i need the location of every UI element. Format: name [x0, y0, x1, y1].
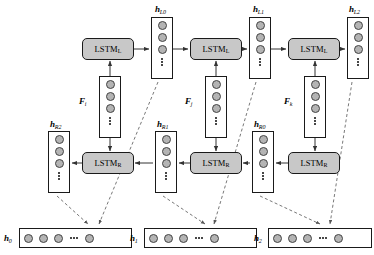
vector-node	[106, 92, 115, 101]
h-1-sub: 1	[135, 238, 138, 244]
vertical-ellipsis-icon	[165, 172, 167, 180]
h-2-sub: 2	[259, 238, 262, 244]
vector-node	[259, 147, 268, 156]
vector-node	[164, 234, 173, 243]
h-l1-vector	[249, 17, 271, 79]
f-k-sub: k	[290, 101, 293, 107]
vector-node	[106, 80, 115, 89]
f-j-vector	[205, 76, 227, 138]
h-r1-sub: R1	[162, 124, 169, 130]
h-r2-label: hR2	[50, 119, 62, 129]
lstm-r-0: LSTMR	[82, 152, 134, 174]
vertical-ellipsis-icon	[259, 58, 261, 66]
vector-node	[179, 234, 188, 243]
vector-node	[158, 33, 167, 42]
lstm-l-0: LSTML	[82, 38, 134, 60]
lstm-l-1-label: LSTM	[203, 44, 226, 54]
vector-node	[354, 33, 363, 42]
lstm-r-0-subscript: R	[117, 162, 121, 168]
lstm-l-2-subscript: L	[324, 48, 328, 54]
vector-node	[334, 234, 343, 243]
vertical-ellipsis-icon	[58, 172, 60, 180]
f-j-sub: j	[191, 101, 193, 107]
h-l2-label: hL2	[349, 4, 360, 14]
vector-node	[303, 234, 312, 243]
vector-node	[354, 45, 363, 54]
f-i-sub: i	[85, 101, 87, 107]
f-j-label: Fj	[185, 96, 193, 106]
f-i-vector	[99, 76, 121, 138]
vector-node	[273, 234, 282, 243]
h-r0-vector	[252, 131, 274, 193]
vector-node	[210, 234, 219, 243]
vector-node	[212, 104, 221, 113]
vector-node	[149, 234, 158, 243]
vector-node	[259, 135, 268, 144]
h-r2-vector	[48, 131, 70, 193]
vector-node	[85, 234, 94, 243]
lstm-r-1: LSTMR	[190, 152, 242, 174]
vector-node	[212, 92, 221, 101]
vector-node	[212, 80, 221, 89]
vertical-ellipsis-icon	[109, 117, 111, 125]
vector-node	[39, 234, 48, 243]
h-0-vector	[19, 228, 132, 248]
lstm-r-1-label: LSTM	[202, 158, 225, 168]
f-k-vector	[304, 76, 326, 138]
lstm-l-0-subscript: L	[118, 48, 122, 54]
vector-node	[162, 147, 171, 156]
horizontal-ellipsis-icon	[195, 237, 203, 239]
vertical-ellipsis-icon	[262, 172, 264, 180]
vector-node	[106, 104, 115, 113]
vector-node	[54, 234, 63, 243]
h-1-label: h1	[130, 233, 138, 243]
h-0-sub: 0	[9, 238, 12, 244]
h-l2-vector	[347, 17, 369, 79]
vector-node	[55, 147, 64, 156]
h-2-vector	[268, 228, 372, 248]
h-l1-label: hL1	[253, 4, 264, 14]
h-2-label: h2	[254, 233, 262, 243]
h-l0-vector	[151, 17, 173, 79]
vertical-ellipsis-icon	[215, 117, 217, 125]
vector-node	[256, 45, 265, 54]
vertical-ellipsis-icon	[314, 117, 316, 125]
vector-node	[162, 135, 171, 144]
vector-node	[55, 159, 64, 168]
horizontal-ellipsis-icon	[319, 237, 327, 239]
vector-node	[158, 21, 167, 30]
h-l2-sub: L2	[354, 9, 360, 15]
h-1-vector	[144, 228, 257, 248]
lstm-r-2-label: LSTM	[300, 158, 323, 168]
vector-node	[162, 159, 171, 168]
lstm-l-1: LSTML	[190, 38, 242, 60]
vertical-ellipsis-icon	[161, 58, 163, 66]
h-r0-sub: R0	[259, 124, 266, 130]
vector-node	[24, 234, 33, 243]
vector-node	[311, 104, 320, 113]
vector-node	[311, 80, 320, 89]
h-r1-label: hR1	[157, 119, 169, 129]
lstm-r-2: LSTMR	[288, 152, 340, 174]
lstm-r-0-label: LSTM	[94, 158, 117, 168]
vector-node	[288, 234, 297, 243]
h-r2-sub: R2	[55, 124, 62, 130]
f-k-label: Fk	[284, 96, 293, 106]
vector-node	[55, 135, 64, 144]
lstm-l-0-label: LSTM	[95, 44, 118, 54]
lstm-l-1-subscript: L	[226, 48, 230, 54]
vector-node	[256, 21, 265, 30]
h-r0-label: hR0	[254, 119, 266, 129]
lstm-r-2-subscript: R	[323, 162, 327, 168]
bilstm-diagram: LSTMLLSTMLLSTMLLSTMRLSTMRLSTMR hL0hL1hL2…	[0, 0, 374, 255]
vector-node	[354, 21, 363, 30]
lstm-l-2-label: LSTM	[301, 44, 324, 54]
h-r1-vector	[155, 131, 177, 193]
vector-node	[311, 92, 320, 101]
h-0-label: h0	[4, 233, 12, 243]
vector-node	[158, 45, 167, 54]
h-l0-sub: L0	[160, 9, 166, 15]
h-l1-sub: L1	[258, 9, 264, 15]
node-layer: LSTMLLSTMLLSTMLLSTMRLSTMRLSTMR hL0hL1hL2…	[0, 0, 374, 255]
vector-node	[259, 159, 268, 168]
